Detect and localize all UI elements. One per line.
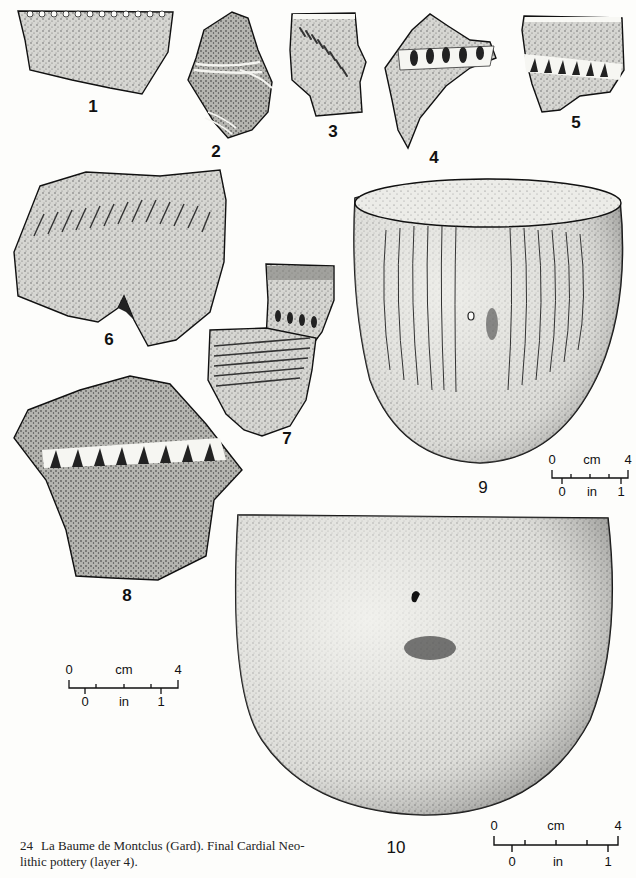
sherd-1 [18, 11, 173, 94]
scale-in-unit: in [587, 484, 597, 499]
label-item-4: 4 [429, 148, 438, 168]
sherd-7 [208, 264, 334, 436]
scale-in-end: 1 [617, 484, 624, 499]
scale-in-start: 0 [81, 694, 88, 709]
scale-cm-start: 0 [490, 818, 497, 833]
label-item-3: 3 [328, 122, 337, 142]
sherd-3 [290, 13, 366, 116]
label-item-1: 1 [88, 97, 97, 117]
figure-number: 24 [20, 838, 33, 853]
label-item-10: 10 [387, 838, 406, 858]
label-item-8: 8 [122, 586, 131, 606]
sherd-6 [14, 170, 226, 346]
label-item-2: 2 [211, 142, 220, 162]
pottery-drawings [0, 0, 636, 878]
scale-cm-unit: cm [583, 452, 600, 467]
scale-in-start: 0 [558, 484, 565, 499]
scale-cm-start: 0 [65, 662, 72, 677]
scale-in-end: 1 [157, 694, 164, 709]
caption-text-1: La Baume de Montclus (Gard). Final Cardi… [41, 838, 305, 853]
scale-cm-unit: cm [547, 818, 564, 833]
scale-ruler [488, 834, 628, 856]
label-item-5: 5 [571, 113, 580, 133]
scale-in-unit: in [119, 694, 129, 709]
figure-caption: 24La Baume de Montclus (Gard). Final Car… [20, 838, 320, 870]
label-item-9: 9 [478, 478, 487, 498]
label-item-7: 7 [282, 429, 291, 449]
label-item-6: 6 [104, 330, 113, 350]
scale-cm-end: 4 [624, 452, 631, 467]
pottery-plate: 1 2 3 4 5 6 7 8 9 10 0 cm 4 0 in 1 0 cm … [0, 0, 636, 878]
scale-in-unit: in [553, 854, 563, 869]
vessel-9 [354, 179, 623, 463]
sherd-5 [522, 16, 624, 112]
vessel-10 [236, 515, 613, 815]
sherd-4 [385, 14, 496, 148]
scale-cm-unit: cm [115, 662, 132, 677]
scale-bar-vessel-10: 0 cm 4 0 in 1 [488, 818, 628, 874]
scale-cm-end: 4 [614, 818, 621, 833]
caption-line-1: 24La Baume de Montclus (Gard). Final Car… [20, 838, 320, 854]
scale-cm-start: 0 [548, 452, 555, 467]
scale-in-end: 1 [604, 854, 611, 869]
caption-line-2: lithic pottery (layer 4). [20, 854, 320, 870]
sherd-2 [188, 12, 272, 138]
sherd-8 [14, 376, 242, 580]
scale-cm-end: 4 [174, 662, 181, 677]
scale-bar-sherds: 0 cm 4 0 in 1 [64, 662, 184, 712]
scale-bar-vessel-9: 0 cm 4 0 in 1 [548, 452, 634, 502]
scale-in-start: 0 [508, 854, 515, 869]
